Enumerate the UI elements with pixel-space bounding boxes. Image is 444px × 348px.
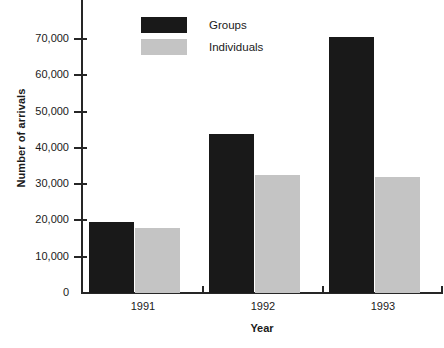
y-tick-label: 70,000 — [0, 33, 69, 44]
legend: Groups Individuals — [141, 14, 263, 58]
y-tick-label: 20,000 — [0, 214, 69, 225]
x-axis-title: Year — [81, 322, 443, 334]
black-swatch-icon — [141, 17, 187, 33]
y-tick-mark — [74, 74, 87, 76]
bar-individuals-1991 — [135, 228, 180, 293]
y-tick-mark — [74, 256, 87, 258]
x-tick-mark-end — [441, 286, 443, 294]
y-tick-label: 10,000 — [0, 251, 69, 262]
bar-groups-1991 — [89, 222, 134, 294]
bar-groups-1993 — [329, 37, 374, 293]
grey-swatch-icon — [141, 39, 187, 55]
bar-individuals-1993 — [375, 177, 420, 293]
y-tick-mark — [74, 147, 87, 149]
y-tick-label: 60,000 — [0, 69, 69, 80]
y-tick-label: 30,000 — [0, 178, 69, 189]
x-tick-label-1991: 1991 — [113, 300, 173, 312]
bar-individuals-1992 — [255, 175, 300, 293]
y-tick-label: 0 — [0, 287, 69, 298]
legend-label-groups: Groups — [209, 19, 247, 31]
x-tick-label-1993: 1993 — [353, 300, 413, 312]
y-tick-label: 50,000 — [0, 106, 69, 117]
y-tick-mark — [74, 219, 87, 221]
x-tick-mark — [322, 286, 324, 294]
legend-label-individuals: Individuals — [209, 41, 263, 53]
y-tick-mark — [74, 111, 87, 113]
x-tick-mark — [202, 286, 204, 294]
bar-chart: Number of arrivals 010,00020,00030,00040… — [0, 0, 444, 348]
bar-groups-1992 — [209, 134, 254, 293]
y-tick-label: 40,000 — [0, 142, 69, 153]
legend-item-groups: Groups — [141, 14, 263, 36]
y-tick-mark — [74, 38, 87, 40]
x-tick-label-1992: 1992 — [233, 300, 293, 312]
legend-item-individuals: Individuals — [141, 36, 263, 58]
y-tick-mark — [74, 183, 87, 185]
